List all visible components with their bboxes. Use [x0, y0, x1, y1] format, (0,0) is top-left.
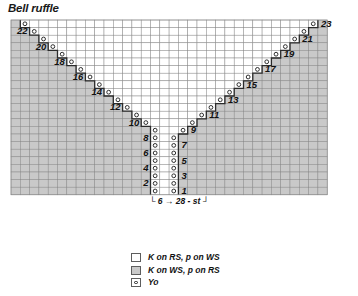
chart-cell — [178, 96, 187, 104]
chart-cell — [271, 104, 280, 112]
chart-cell — [95, 172, 104, 180]
chart-cell — [95, 96, 104, 104]
chart-cell — [48, 28, 57, 36]
chart-cell — [104, 28, 113, 36]
chart-cell — [281, 28, 290, 36]
chart-cell — [309, 187, 318, 195]
chart-cell — [67, 50, 76, 58]
chart-cell — [113, 134, 122, 142]
chart-cell — [11, 43, 20, 51]
chart-cell — [281, 96, 290, 104]
chart-cell — [76, 88, 85, 96]
chart-cell — [225, 172, 234, 180]
chart-cell — [104, 119, 113, 127]
chart-cell — [271, 20, 280, 28]
chart-cell — [178, 28, 187, 36]
chart-cell — [262, 96, 271, 104]
chart-cell — [281, 157, 290, 165]
chart-cell — [11, 58, 20, 66]
swatch-yo-icon — [131, 278, 141, 287]
chart-cell — [271, 172, 280, 180]
chart-cell — [123, 164, 132, 172]
chart-cell — [151, 142, 160, 150]
chart-cell — [58, 81, 67, 89]
chart-cell — [234, 111, 243, 119]
chart-cell — [95, 187, 104, 195]
chart-cell — [281, 134, 290, 142]
chart-cell — [262, 134, 271, 142]
chart-cell — [178, 35, 187, 43]
chart-cell — [30, 66, 39, 74]
chart-cell — [178, 43, 187, 51]
chart-cell — [197, 43, 206, 51]
chart-cell — [234, 43, 243, 51]
chart-cell — [197, 88, 206, 96]
chart-cell — [216, 172, 225, 180]
chart-cell — [225, 73, 234, 81]
chart-cell — [262, 157, 271, 165]
chart-cell — [234, 119, 243, 127]
chart-cell — [85, 119, 94, 127]
chart-cell — [123, 104, 132, 112]
chart-cell — [104, 157, 113, 165]
chart-cell — [160, 142, 169, 150]
chart-cell — [141, 66, 150, 74]
chart-cell — [169, 180, 178, 188]
chart-cell — [225, 180, 234, 188]
chart-cell — [85, 50, 94, 58]
chart-cell — [160, 134, 169, 142]
chart-cell — [95, 142, 104, 150]
chart-cell — [48, 119, 57, 127]
chart-cell — [11, 149, 20, 157]
chart-cell — [20, 104, 29, 112]
chart-cell — [151, 88, 160, 96]
chart-cell — [169, 142, 178, 150]
chart-cell — [132, 172, 141, 180]
chart-cell — [48, 96, 57, 104]
chart-cell — [104, 164, 113, 172]
chart-cell — [309, 20, 318, 28]
chart-cell — [253, 96, 262, 104]
chart-cell — [20, 111, 29, 119]
chart-cell — [253, 149, 262, 157]
chart-cell — [318, 164, 327, 172]
chart-cell — [113, 180, 122, 188]
chart-cell — [76, 20, 85, 28]
chart-cell — [160, 81, 169, 89]
chart-cell — [30, 134, 39, 142]
chart-cell — [85, 43, 94, 51]
chart-cell — [206, 96, 215, 104]
chart-cell — [169, 35, 178, 43]
chart-cell — [123, 187, 132, 195]
chart-cell — [271, 28, 280, 36]
chart-cell — [299, 104, 308, 112]
chart-cell — [58, 164, 67, 172]
chart-cell — [123, 157, 132, 165]
chart-cell — [30, 164, 39, 172]
chart-cell — [234, 58, 243, 66]
chart-cell — [141, 50, 150, 58]
chart-cell — [11, 157, 20, 165]
chart-cell — [39, 58, 48, 66]
chart-cell — [262, 126, 271, 134]
chart-cell — [206, 35, 215, 43]
chart-cell — [132, 180, 141, 188]
chart-cell — [197, 126, 206, 134]
chart-cell — [11, 88, 20, 96]
chart-cell — [178, 20, 187, 28]
chart-cell — [160, 180, 169, 188]
chart-cell — [169, 50, 178, 58]
row-number-3: 3 — [181, 171, 186, 181]
chart-cell — [39, 134, 48, 142]
chart-cell — [225, 28, 234, 36]
chart-cell — [67, 172, 76, 180]
chart-cell — [132, 149, 141, 157]
row-number-23: 23 — [321, 19, 332, 29]
chart-cell — [253, 119, 262, 127]
chart-cell — [132, 58, 141, 66]
chart-cell — [151, 187, 160, 195]
chart-cell — [30, 28, 39, 36]
chart-cell — [244, 96, 253, 104]
chart-cell — [132, 28, 141, 36]
chart-cell — [30, 73, 39, 81]
